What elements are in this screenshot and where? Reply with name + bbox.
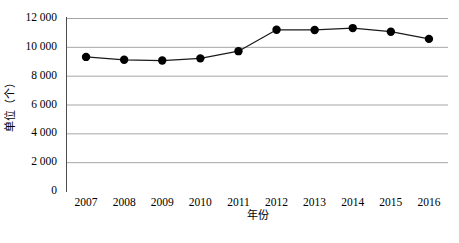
data-point-marker [120,56,128,64]
x-axis-tick-label: 2015 [372,194,410,210]
data-point-marker [272,26,280,34]
x-axis-tick-label: 2014 [334,194,372,210]
data-point-markers [82,24,433,65]
data-point-marker [387,28,395,36]
data-point-marker [234,47,242,55]
y-axis-tick-label: 0 [18,185,62,197]
x-axis-tick-label: 2013 [296,194,334,210]
gridlines [67,19,448,192]
x-axis-tick-label: 2016 [410,194,448,210]
data-point-marker [349,24,357,32]
data-point-marker [158,56,166,64]
x-axis-tick-label: 2007 [67,194,105,210]
x-axis-title: 年份 [67,209,448,223]
y-axis-tick-label: 10 000 [18,41,62,53]
series-svg [67,18,448,191]
data-point-marker [196,54,204,62]
data-point-marker [310,26,318,34]
x-axis-tick-label: 2012 [257,194,295,210]
x-axis-tick-label: 2008 [105,194,143,210]
data-point-marker [425,35,433,43]
x-axis-tick-labels: 2007200820092010201120122013201420152016 [67,194,448,210]
series-line [86,28,429,60]
y-axis-tick-labels: 02 0004 0006 0008 00010 00012 000 [18,0,62,243]
x-axis-tick-label: 2011 [219,194,257,210]
y-axis-tick-label: 2 000 [18,156,62,168]
data-point-marker [82,53,90,61]
y-axis-tick-label: 12 000 [18,12,62,24]
x-axis-tick-label: 2009 [143,194,181,210]
y-axis-tick-label: 6 000 [18,99,62,111]
y-axis-tick-label: 4 000 [18,128,62,140]
x-axis-tick-label: 2010 [181,194,219,210]
line-chart: 单位（个） 02 0004 0006 0008 00010 00012 000 … [0,0,459,243]
y-axis-tick-label: 8 000 [18,70,62,82]
plot-area [67,18,448,191]
